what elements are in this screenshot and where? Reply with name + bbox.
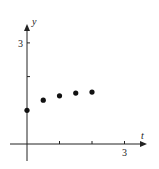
y-tick-label-3: 3 [18,38,23,49]
axes [10,24,147,161]
data-point [73,91,78,96]
x-axis-label: t [141,130,144,141]
x-axis-arrow-icon [140,141,147,147]
data-point [24,108,29,113]
data-point [89,90,94,95]
y-axis-label: y [31,16,37,27]
data-point [41,98,46,103]
scatter-chart: t y 3 3 [0,0,159,169]
data-point [57,93,62,98]
y-axis-arrow-icon [24,24,30,31]
data-points [24,90,94,113]
x-tick-label-3: 3 [122,147,127,158]
